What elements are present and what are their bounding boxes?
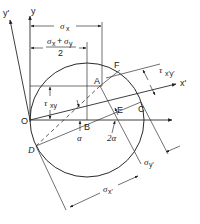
alpha-label: α: [77, 133, 82, 143]
alpha-top-arrow: [77, 100, 79, 107]
point-D-label: D: [27, 145, 35, 155]
tau-xpyp-dimension: τ x'y': [143, 65, 175, 95]
sigma-yp-subscript: y': [149, 161, 154, 169]
mean-num-sub-x: x: [52, 40, 56, 47]
point-E-label: E: [117, 105, 123, 115]
mohrs-circle-diagram: y y' x' σ x σ x + σ y 2: [0, 0, 200, 224]
tau-xy-label: τ: [44, 98, 48, 108]
mean-denominator: 2: [58, 48, 63, 58]
sigma-xp-subscript: x': [108, 188, 113, 195]
x-prime-axis: x': [30, 78, 187, 120]
sigma-x-dimension: σ x: [31, 21, 101, 32]
sigma-xp-perp-line: [141, 102, 168, 154]
tau-xy-subscript: xy: [50, 102, 58, 110]
y-prime-axis: y': [3, 8, 30, 120]
line-AF: [100, 70, 120, 86]
sigma-xp-projection-line: [36, 146, 66, 210]
two-alpha-label: 2α: [107, 133, 117, 143]
two-alpha-pointer: [112, 121, 115, 133]
x-prime-label: x': [180, 78, 187, 88]
mean-num-plus: +: [57, 36, 62, 46]
sigma-xp-dimension: σ x': [70, 176, 138, 207]
mean-stress-dimension: σ x + σ y 2: [31, 36, 86, 58]
point-C-label: C: [138, 104, 145, 114]
tau-xpyp-subscript: x'y': [165, 70, 175, 78]
sigma-x-subscript: x: [66, 25, 70, 32]
point-F-label: F: [114, 60, 120, 70]
tau-xy-dimension: τ xy: [44, 87, 58, 119]
point-B-label: B: [84, 122, 90, 132]
tau-xpyp-label: τ: [159, 65, 163, 75]
point-A-label: A: [94, 76, 100, 86]
y-axis: y: [30, 6, 36, 122]
y-prime-label: y': [3, 8, 10, 18]
sigma-x-label: σ: [60, 21, 65, 31]
mean-num-sub-y: y: [69, 40, 73, 48]
y-axis-label: y: [31, 6, 36, 16]
point-O-label: O: [21, 116, 28, 126]
sigma-yp-dimension: σ y': [144, 146, 180, 169]
